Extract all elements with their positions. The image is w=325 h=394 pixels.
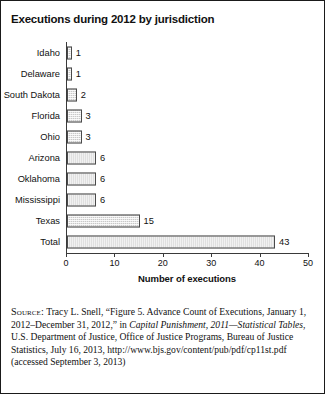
source-note: Source: Tracy L. Snell, “Figure 5. Advan… (11, 306, 313, 369)
x-axis-tick (163, 253, 164, 257)
bar-row: Texas15 (1, 211, 324, 232)
bar-chart: Idaho1Delaware1South Dakota2Florida3Ohio… (1, 42, 324, 268)
bar-value-label: 43 (279, 237, 289, 247)
bar-category-label: Ohio (40, 132, 60, 142)
bar-value-label: 6 (100, 153, 105, 163)
bar-value-label: 1 (76, 69, 81, 79)
bar (67, 130, 82, 143)
bar-row: Florida3 (1, 105, 324, 126)
bar-category-label: Florida (32, 111, 60, 121)
bar (67, 194, 96, 207)
source-label: Source: (11, 306, 44, 317)
bar-row: Arizona6 (1, 148, 324, 169)
bar (67, 67, 72, 80)
x-axis-tick-label: 30 (206, 258, 216, 268)
bar-row: Oklahoma6 (1, 169, 324, 190)
bar-row: Mississippi6 (1, 190, 324, 211)
bar-category-label: Total (40, 237, 60, 247)
x-axis-title: Number of executions (66, 273, 308, 284)
bar-value-label: 2 (81, 90, 86, 100)
x-axis-tick (66, 253, 67, 257)
source-italic-title: Capital Punishment, 2011—Statistical Tab… (129, 319, 303, 330)
bar (67, 109, 82, 122)
bar-row: Idaho1 (1, 42, 324, 63)
bar-category-label: Arizona (28, 153, 60, 163)
bar (67, 215, 140, 228)
x-axis-tick-label: 0 (63, 258, 68, 268)
bar (67, 152, 96, 165)
bar (67, 88, 77, 101)
bar (67, 236, 275, 249)
bar (67, 173, 96, 186)
x-axis-tick (260, 253, 261, 257)
bar (67, 46, 72, 59)
x-axis-tick-label: 40 (255, 258, 265, 268)
page-title: Executions during 2012 by jurisdiction (1, 1, 324, 26)
bar-row: South Dakota2 (1, 84, 324, 105)
bar-value-label: 3 (86, 111, 91, 121)
bar-category-label: Mississippi (15, 195, 60, 205)
bar-category-label: South Dakota (4, 90, 60, 100)
x-axis-line (66, 253, 308, 254)
bar-category-label: Delaware (21, 69, 60, 79)
bar-value-label: 6 (100, 174, 105, 184)
x-axis-tick (308, 253, 309, 257)
figure-container: Executions during 2012 by jurisdiction I… (0, 0, 325, 394)
bar-row: Delaware1 (1, 63, 324, 84)
bar-value-label: 3 (86, 132, 91, 142)
bar-value-label: 1 (76, 48, 81, 58)
x-axis-tick (114, 253, 115, 257)
x-axis-tick-label: 50 (303, 258, 313, 268)
bar-category-label: Oklahoma (18, 174, 60, 184)
x-axis-tick-label: 10 (109, 258, 119, 268)
bar-value-label: 6 (100, 195, 105, 205)
bar-category-label: Idaho (37, 48, 60, 58)
bar-category-label: Texas (36, 216, 60, 226)
bar-row: Total43 (1, 232, 324, 253)
x-axis-tick (211, 253, 212, 257)
bar-value-label: 15 (144, 216, 154, 226)
x-axis-tick-label: 20 (158, 258, 168, 268)
bar-row: Ohio3 (1, 126, 324, 147)
